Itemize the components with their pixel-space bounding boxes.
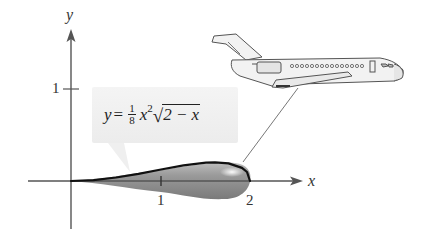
airplane-fuselage-figure: y = 1 8 x 2 √ 2 − x y x 1 1 2 bbox=[0, 0, 435, 247]
airplane-illustration bbox=[212, 34, 403, 88]
formula-square-root: √ 2 − x bbox=[153, 104, 200, 125]
formula-equals: = bbox=[114, 105, 124, 125]
formula-exponent: 2 bbox=[147, 102, 153, 114]
airplane-tail-fin bbox=[212, 34, 262, 60]
x-tick-label-2: 2 bbox=[246, 193, 254, 208]
y-axis-label: y bbox=[66, 7, 73, 23]
x-tick-label-1: 1 bbox=[157, 193, 165, 208]
formula-fraction: 1 8 bbox=[128, 103, 136, 126]
callout-pointer bbox=[108, 143, 130, 172]
airplane-engine bbox=[257, 62, 281, 73]
formula-callout: y = 1 8 x 2 √ 2 − x bbox=[92, 87, 238, 143]
formula-lhs: y bbox=[104, 105, 112, 125]
formula-variable: x bbox=[140, 105, 148, 125]
fraction-denominator: 8 bbox=[129, 115, 135, 126]
leader-line bbox=[243, 88, 298, 162]
x-axis-label: x bbox=[308, 173, 315, 189]
formula-radicand: 2 − x bbox=[162, 104, 200, 125]
function-formula: y = 1 8 x 2 √ 2 − x bbox=[104, 103, 200, 126]
y-tick-label-1: 1 bbox=[52, 81, 60, 96]
